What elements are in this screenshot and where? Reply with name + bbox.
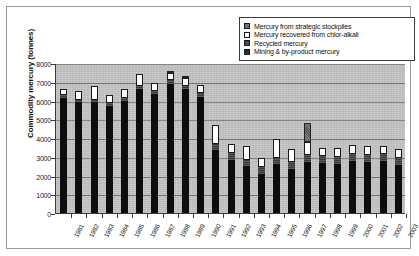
x-axis-tick-label: 1995 — [285, 223, 298, 239]
bar-segment — [106, 106, 113, 213]
x-axis-tick-label: 1982 — [87, 223, 100, 239]
bar-1986[interactable] — [136, 74, 143, 213]
x-axis-tick-label: 1985 — [133, 223, 146, 239]
bar-1989[interactable] — [182, 76, 189, 213]
bar-segment — [273, 139, 280, 158]
bar-2002[interactable] — [380, 146, 387, 214]
bar-segment — [304, 142, 311, 155]
y-axis-tick-label: 4000 — [36, 136, 51, 143]
bar-segment — [151, 94, 158, 213]
bar-segment — [136, 89, 143, 213]
bar-segment — [75, 102, 82, 213]
y-axis-tick-label: 6000 — [36, 98, 51, 105]
bar-1993[interactable] — [243, 146, 250, 214]
x-axis-tick-label: 2002 — [392, 223, 405, 239]
x-axis-tick-label: 1986 — [148, 223, 161, 239]
x-axis-tick-mark — [345, 214, 346, 218]
bar-1991[interactable] — [212, 125, 219, 213]
bar-1985[interactable] — [121, 89, 128, 213]
bar-1997[interactable] — [304, 123, 311, 213]
bar-1987[interactable] — [151, 83, 158, 213]
x-axis-tick-mark — [254, 214, 255, 218]
bar-segment — [91, 86, 98, 99]
bar-segment — [364, 155, 371, 163]
legend-swatch-icon — [244, 23, 250, 29]
legend-swatch-icon — [244, 32, 250, 38]
x-axis-tick-mark — [223, 214, 224, 218]
bar-1981[interactable] — [60, 89, 67, 213]
bar-1992[interactable] — [228, 144, 235, 213]
x-axis-tick-label: 2003 — [407, 223, 419, 239]
bar-segment — [258, 174, 265, 213]
bar-segment — [197, 97, 204, 213]
x-axis-tick-label: 2000 — [361, 223, 374, 239]
x-axis-tick-mark — [117, 214, 118, 218]
bar-segment — [304, 123, 311, 142]
bar-segment — [243, 166, 250, 213]
x-axis-tick-label: 1989 — [194, 223, 207, 239]
x-axis-tick-mark — [391, 214, 392, 218]
legend-label: Mercury recovered from chlor-alkali — [254, 31, 358, 38]
legend-item-1[interactable]: Mercury recovered from chlor-alkali — [244, 31, 410, 38]
bar-segment — [106, 95, 113, 103]
y-axis-tick-mark — [51, 214, 55, 215]
bar-1982[interactable] — [75, 91, 82, 213]
legend-label: Recycled mercury — [254, 40, 308, 47]
legend-swatch-icon — [244, 49, 250, 55]
bar-2001[interactable] — [364, 146, 371, 214]
x-axis-tick-label: 1988 — [178, 223, 191, 239]
bar-1999[interactable] — [334, 148, 341, 213]
legend-label: Mining & by-product mercury — [254, 48, 339, 55]
bar-segment — [91, 102, 98, 213]
bar-segment — [273, 164, 280, 213]
bar-1994[interactable] — [258, 158, 265, 213]
bar-1996[interactable] — [288, 149, 295, 213]
x-axis-tick-mark — [360, 214, 361, 218]
chart-legend: Mercury from strategic stockpilesMercury… — [239, 17, 415, 61]
x-axis-tick-mark — [284, 214, 285, 218]
x-axis-tick-mark — [315, 214, 316, 218]
x-axis-tick-mark — [330, 214, 331, 218]
bar-segment — [212, 125, 219, 144]
bar-segment — [334, 164, 341, 213]
bar-segment — [197, 85, 204, 93]
bar-1998[interactable] — [319, 148, 326, 213]
x-axis-tick-mark — [147, 214, 148, 218]
bar-1983[interactable] — [91, 86, 98, 213]
bar-segment — [121, 89, 128, 97]
bar-segment — [364, 162, 371, 213]
bar-segment — [228, 160, 235, 213]
bar-1984[interactable] — [106, 95, 113, 213]
legend-item-3[interactable]: Mining & by-product mercury — [244, 48, 410, 55]
y-axis-tick-label: 7000 — [36, 79, 51, 86]
x-axis-tick-mark — [102, 214, 103, 218]
bar-segment — [349, 154, 356, 162]
bar-segment — [258, 158, 265, 167]
bar-segment — [212, 150, 219, 213]
bar-1990[interactable] — [197, 85, 204, 213]
x-axis-tick-label: 1999 — [346, 223, 359, 239]
bar-segment — [395, 158, 402, 166]
bar-segment — [121, 101, 128, 214]
x-axis-tick-label: 1990 — [209, 223, 222, 239]
bar-2003[interactable] — [395, 149, 402, 213]
bar-segment — [75, 91, 82, 99]
x-axis-tick-mark — [86, 214, 87, 218]
plot-area — [55, 64, 405, 214]
gridline — [56, 83, 405, 84]
bar-segment — [395, 165, 402, 213]
x-axis-tick-mark — [299, 214, 300, 218]
bar-segment — [304, 162, 311, 213]
x-axis-tick-mark — [376, 214, 377, 218]
bar-segment — [334, 148, 341, 156]
legend-item-2[interactable]: Recycled mercury — [244, 40, 410, 47]
bar-1988[interactable] — [167, 71, 174, 213]
bar-2000[interactable] — [349, 145, 356, 213]
legend-label: Mercury from strategic stockpiles — [254, 23, 351, 30]
x-axis-tick-mark — [71, 214, 72, 218]
chart-screenshot: Commodity mercury (tonnes) 0100020003000… — [0, 0, 419, 256]
legend-item-0[interactable]: Mercury from strategic stockpiles — [244, 23, 410, 30]
bar-1995[interactable] — [273, 139, 280, 213]
bar-segment — [243, 146, 250, 160]
bar-segment — [304, 155, 311, 163]
